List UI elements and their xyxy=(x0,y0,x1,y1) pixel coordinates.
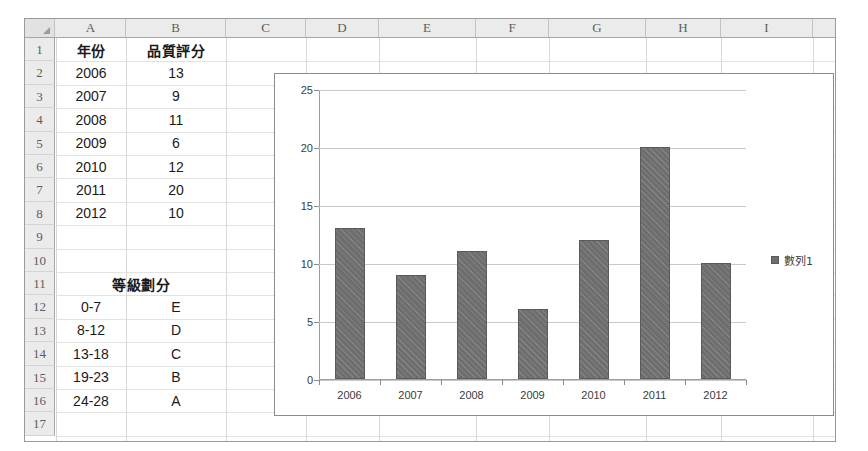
row-header-4[interactable]: 4 xyxy=(25,108,55,131)
gridline-y xyxy=(319,264,746,265)
gridline-horizontal xyxy=(56,436,835,437)
y-tick-label-20: 20 xyxy=(301,142,313,154)
cell-B4[interactable]: 11 xyxy=(126,108,226,131)
x-tick-label-2011: 2011 xyxy=(643,389,667,401)
x-tick-label-2006: 2006 xyxy=(337,389,361,401)
legend-swatch-icon xyxy=(771,256,779,264)
cell-A7[interactable]: 2011 xyxy=(56,178,126,201)
x-tick-mark xyxy=(502,380,503,385)
x-tick-mark xyxy=(380,380,381,385)
cell-B13[interactable]: D xyxy=(126,319,226,342)
bar-2010[interactable] xyxy=(579,240,609,379)
row-header-6[interactable]: 6 xyxy=(25,155,55,178)
cell-B5[interactable]: 6 xyxy=(126,132,226,155)
cell-B1[interactable]: 品質評分 xyxy=(126,38,226,61)
y-tick-mark xyxy=(314,148,319,149)
x-tick-label-2010: 2010 xyxy=(581,389,605,401)
cell-A13[interactable]: 8-12 xyxy=(56,319,126,342)
cell-B7[interactable]: 20 xyxy=(126,178,226,201)
x-tick-label-2012: 2012 xyxy=(703,389,727,401)
gridline-y xyxy=(319,380,746,381)
chart-legend[interactable]: 數列1 xyxy=(771,252,813,268)
y-tick-label-5: 5 xyxy=(307,316,313,328)
row-header-14[interactable]: 14 xyxy=(25,342,55,365)
cell-B8[interactable]: 10 xyxy=(126,202,226,225)
cell-A3[interactable]: 2007 xyxy=(56,85,126,108)
bar-2011[interactable] xyxy=(640,147,670,379)
cell-A8[interactable]: 2012 xyxy=(56,202,126,225)
row-header-13[interactable]: 13 xyxy=(25,319,55,342)
cell-B14[interactable]: C xyxy=(126,342,226,365)
cell-B12[interactable]: E xyxy=(126,295,226,318)
legend-label: 數列1 xyxy=(784,252,813,268)
row-header-1[interactable]: 1 xyxy=(25,38,55,61)
bar-2009[interactable] xyxy=(518,309,548,379)
spreadsheet-grid[interactable]: ABCDEFGHI1234567891011121314151617年份品質評分… xyxy=(24,18,836,442)
row-header-17[interactable]: 17 xyxy=(25,412,55,435)
cell-A2[interactable]: 2006 xyxy=(56,61,126,84)
y-tick-mark xyxy=(314,206,319,207)
row-header-11[interactable]: 11 xyxy=(25,272,55,295)
cell-B16[interactable]: A xyxy=(126,389,226,412)
cell-A12[interactable]: 0-7 xyxy=(56,295,126,318)
select-all-corner[interactable] xyxy=(25,19,55,37)
embedded-chart[interactable]: 0510152025 2006200720082009201020112012 … xyxy=(274,73,834,416)
row-header-2[interactable]: 2 xyxy=(25,61,55,84)
column-header-A[interactable]: A xyxy=(56,19,126,37)
x-tick-mark xyxy=(685,380,686,385)
row-header-7[interactable]: 7 xyxy=(25,178,55,201)
cell-A11[interactable]: 等級劃分 xyxy=(56,272,226,295)
y-tick-mark xyxy=(314,90,319,91)
y-tick-mark xyxy=(314,264,319,265)
bar-2006[interactable] xyxy=(335,228,365,379)
column-header-B[interactable]: B xyxy=(126,19,226,37)
row-header-10[interactable]: 10 xyxy=(25,249,55,272)
x-tick-mark xyxy=(624,380,625,385)
cell-A1[interactable]: 年份 xyxy=(56,38,126,61)
column-header-H[interactable]: H xyxy=(646,19,721,37)
chart-plot-area: 0510152025 2006200720082009201020112012 xyxy=(319,90,746,380)
y-tick-mark xyxy=(314,322,319,323)
cell-B15[interactable]: B xyxy=(126,366,226,389)
column-header-D[interactable]: D xyxy=(306,19,379,37)
bar-2008[interactable] xyxy=(457,251,487,379)
x-tick-mark xyxy=(319,380,320,385)
y-axis-line xyxy=(319,90,320,380)
cell-A5[interactable]: 2009 xyxy=(56,132,126,155)
cell-B2[interactable]: 13 xyxy=(126,61,226,84)
column-header-I[interactable]: I xyxy=(721,19,813,37)
cell-A6[interactable]: 2010 xyxy=(56,155,126,178)
column-header-F[interactable]: F xyxy=(476,19,549,37)
gridline-y xyxy=(319,148,746,149)
gridline-y xyxy=(319,206,746,207)
row-header-12[interactable]: 12 xyxy=(25,295,55,318)
column-header-partial[interactable] xyxy=(813,19,836,37)
row-header-3[interactable]: 3 xyxy=(25,85,55,108)
x-tick-label-2007: 2007 xyxy=(398,389,422,401)
cell-A14[interactable]: 13-18 xyxy=(56,342,126,365)
y-tick-label-10: 10 xyxy=(301,258,313,270)
column-header-C[interactable]: C xyxy=(226,19,306,37)
x-tick-mark xyxy=(746,380,747,385)
column-header-G[interactable]: G xyxy=(549,19,646,37)
row-header-8[interactable]: 8 xyxy=(25,202,55,225)
x-tick-label-2009: 2009 xyxy=(520,389,544,401)
bar-2007[interactable] xyxy=(396,275,426,379)
gridline-y xyxy=(319,90,746,91)
cell-A15[interactable]: 19-23 xyxy=(56,366,126,389)
cell-B3[interactable]: 9 xyxy=(126,85,226,108)
row-header-5[interactable]: 5 xyxy=(25,132,55,155)
cell-A16[interactable]: 24-28 xyxy=(56,389,126,412)
column-header-E[interactable]: E xyxy=(379,19,476,37)
cell-B6[interactable]: 12 xyxy=(126,155,226,178)
x-tick-mark xyxy=(441,380,442,385)
row-header-16[interactable]: 16 xyxy=(25,389,55,412)
y-tick-label-25: 25 xyxy=(301,84,313,96)
row-header-9[interactable]: 9 xyxy=(25,225,55,248)
cell-A4[interactable]: 2008 xyxy=(56,108,126,131)
select-all-triangle-icon xyxy=(43,27,50,34)
bar-2012[interactable] xyxy=(701,263,731,379)
gridline-vertical xyxy=(226,38,227,441)
row-header-15[interactable]: 15 xyxy=(25,366,55,389)
y-tick-label-0: 0 xyxy=(307,374,313,386)
